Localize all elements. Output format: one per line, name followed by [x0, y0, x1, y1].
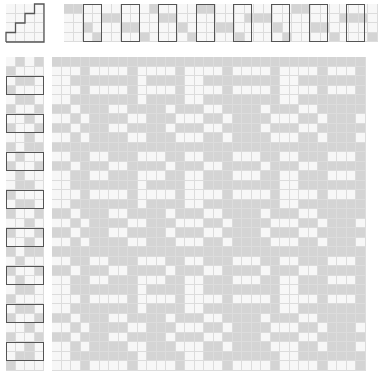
drawdown-weft-up[interactable] — [138, 352, 148, 362]
threading-cell[interactable] — [216, 33, 226, 43]
drawdown-warp-up[interactable] — [81, 143, 91, 153]
drawdown-warp-up[interactable] — [356, 361, 366, 371]
drawdown-weft-up[interactable] — [100, 361, 110, 371]
drawdown-warp-up[interactable] — [157, 95, 167, 105]
drawdown-warp-up[interactable] — [166, 276, 176, 286]
drawdown-warp-up[interactable] — [147, 219, 157, 229]
drawdown-warp-up[interactable] — [271, 152, 281, 162]
drawdown-warp-up[interactable] — [299, 152, 309, 162]
drawdown-warp-up[interactable] — [81, 95, 91, 105]
drawdown-warp-up[interactable] — [119, 57, 129, 67]
drawdown-warp-up[interactable] — [100, 124, 110, 134]
treadling-mark[interactable] — [25, 323, 35, 333]
drawdown-weft-up[interactable] — [62, 238, 72, 248]
drawdown-weft-up[interactable] — [242, 295, 252, 305]
drawdown-weft-up[interactable] — [347, 152, 357, 162]
drawdown-warp-up[interactable] — [71, 352, 81, 362]
drawdown-weft-up[interactable] — [62, 361, 72, 371]
drawdown-warp-up[interactable] — [261, 219, 271, 229]
drawdown-weft-up[interactable] — [62, 67, 72, 77]
drawdown-warp-up[interactable] — [356, 200, 366, 210]
drawdown-warp-up[interactable] — [214, 133, 224, 143]
drawdown-weft-up[interactable] — [62, 114, 72, 124]
drawdown-warp-up[interactable] — [328, 114, 338, 124]
drawdown-weft-up[interactable] — [166, 105, 176, 115]
drawdown-warp-up[interactable] — [128, 105, 138, 115]
drawdown-warp-up[interactable] — [185, 247, 195, 257]
drawdown-warp-up[interactable] — [214, 95, 224, 105]
drawdown-weft-up[interactable] — [214, 266, 224, 276]
drawdown-weft-up[interactable] — [214, 67, 224, 77]
drawdown-weft-up[interactable] — [309, 86, 319, 96]
treadling-cell[interactable] — [25, 266, 35, 276]
drawdown-warp-up[interactable] — [299, 257, 309, 267]
drawdown-warp-up[interactable] — [309, 276, 319, 286]
drawdown-weft-up[interactable] — [233, 152, 243, 162]
drawdown-warp-up[interactable] — [252, 323, 262, 333]
drawdown-warp-up[interactable] — [147, 238, 157, 248]
drawdown-weft-up[interactable] — [233, 190, 243, 200]
threading-mark[interactable] — [302, 4, 312, 14]
drawdown-warp-up[interactable] — [233, 181, 243, 191]
threading-mark[interactable] — [188, 33, 198, 43]
drawdown-weft-up[interactable] — [252, 171, 262, 181]
drawdown-warp-up[interactable] — [52, 143, 62, 153]
drawdown-weft-up[interactable] — [195, 285, 205, 295]
drawdown-weft-up[interactable] — [214, 361, 224, 371]
drawdown-warp-up[interactable] — [62, 209, 72, 219]
drawdown-warp-up[interactable] — [290, 247, 300, 257]
threading-cell[interactable] — [226, 14, 236, 24]
drawdown-weft-up[interactable] — [195, 95, 205, 105]
drawdown-warp-up[interactable] — [185, 314, 195, 324]
drawdown-weft-up[interactable] — [109, 67, 119, 77]
drawdown-warp-up[interactable] — [347, 352, 357, 362]
drawdown-weft-up[interactable] — [242, 276, 252, 286]
drawdown-weft-up[interactable] — [290, 67, 300, 77]
threading-cell[interactable] — [264, 33, 274, 43]
drawdown-weft-up[interactable] — [195, 295, 205, 305]
drawdown-warp-up[interactable] — [157, 162, 167, 172]
drawdown-weft-up[interactable] — [81, 342, 91, 352]
drawdown-warp-up[interactable] — [100, 95, 110, 105]
drawdown-warp-up[interactable] — [119, 276, 129, 286]
drawdown-warp-up[interactable] — [328, 76, 338, 86]
drawdown-warp-up[interactable] — [100, 57, 110, 67]
treadling-mark[interactable] — [35, 266, 45, 276]
drawdown-weft-up[interactable] — [271, 219, 281, 229]
drawdown-warp-up[interactable] — [223, 67, 233, 77]
drawdown-warp-up[interactable] — [356, 76, 366, 86]
drawdown-warp-up[interactable] — [176, 57, 186, 67]
drawdown-weft-up[interactable] — [185, 171, 195, 181]
drawdown-weft-up[interactable] — [166, 295, 176, 305]
drawdown-warp-up[interactable] — [195, 105, 205, 115]
drawdown-warp-up[interactable] — [318, 228, 328, 238]
drawdown-warp-up[interactable] — [90, 323, 100, 333]
drawdown-warp-up[interactable] — [223, 171, 233, 181]
drawdown-warp-up[interactable] — [356, 162, 366, 172]
drawdown-weft-up[interactable] — [214, 105, 224, 115]
drawdown-weft-up[interactable] — [109, 361, 119, 371]
drawdown-warp-up[interactable] — [138, 228, 148, 238]
drawdown-warp-up[interactable] — [261, 95, 271, 105]
drawdown-warp-up[interactable] — [100, 76, 110, 86]
tieup-cell[interactable] — [6, 14, 16, 24]
drawdown-weft-up[interactable] — [119, 209, 129, 219]
drawdown-warp-up[interactable] — [328, 143, 338, 153]
drawdown-warp-up[interactable] — [299, 143, 309, 153]
drawdown-weft-up[interactable] — [52, 352, 62, 362]
drawdown-warp-up[interactable] — [356, 143, 366, 153]
threading-cell[interactable] — [150, 33, 160, 43]
drawdown-warp-up[interactable] — [223, 361, 233, 371]
drawdown-warp-up[interactable] — [271, 314, 281, 324]
drawdown-warp-up[interactable] — [204, 247, 214, 257]
drawdown-weft-up[interactable] — [71, 209, 81, 219]
drawdown-weft-up[interactable] — [204, 124, 214, 134]
drawdown-warp-up[interactable] — [337, 247, 347, 257]
drawdown-warp-up[interactable] — [166, 171, 176, 181]
treadling-mark[interactable] — [16, 352, 26, 362]
drawdown-weft-up[interactable] — [52, 190, 62, 200]
drawdown-warp-up[interactable] — [337, 200, 347, 210]
drawdown-warp-up[interactable] — [157, 219, 167, 229]
drawdown-weft-up[interactable] — [261, 124, 271, 134]
drawdown-warp-up[interactable] — [62, 57, 72, 67]
